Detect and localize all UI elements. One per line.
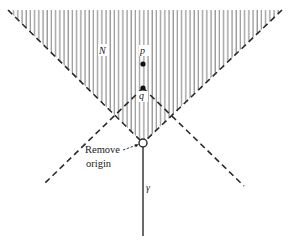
point-label-p: p	[139, 45, 145, 56]
hatched-region-n	[8, 10, 282, 143]
q-cone-right	[143, 88, 244, 186]
arrowhead-icon	[135, 144, 140, 147]
remove-origin-label-line2: origin	[86, 158, 112, 169]
remove-origin-label-line1: Remove	[85, 144, 120, 155]
removed-origin-marker	[139, 139, 147, 147]
point-label-q: q	[139, 90, 144, 101]
curve-label-gamma: γ	[146, 182, 151, 193]
origin-pointer-arrow	[123, 145, 137, 150]
spacetime-diagram: N p q Remove origin γ	[0, 0, 289, 244]
region-label-n: N	[98, 45, 107, 56]
point-p	[140, 61, 145, 66]
